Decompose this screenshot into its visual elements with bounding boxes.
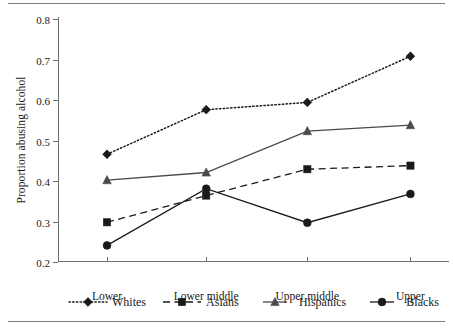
data-point-marker <box>179 298 186 305</box>
legend-item-whites[interactable]: Whites <box>68 295 146 309</box>
data-point-marker <box>84 298 93 307</box>
data-point-marker <box>406 52 415 61</box>
series-line <box>107 56 410 154</box>
series-line <box>107 189 410 246</box>
data-point-marker <box>407 190 415 198</box>
legend-item-asians[interactable]: Asians <box>162 295 239 309</box>
data-point-marker <box>103 150 112 159</box>
legend-label: Hispanics <box>299 295 346 309</box>
y-tick-label: 0.7 <box>36 53 50 69</box>
top-divider-rule <box>8 3 445 4</box>
y-tick-label: 0.4 <box>36 174 50 190</box>
data-point-marker <box>103 219 110 226</box>
data-point-marker <box>202 185 210 193</box>
y-tick-label: 0.2 <box>36 255 50 271</box>
legend-label: Asians <box>206 295 239 309</box>
data-point-marker <box>378 298 386 306</box>
chart-legend: WhitesAsiansHispanicsBlacks <box>58 291 447 313</box>
series-lines-group <box>58 19 447 262</box>
legend-item-blacks[interactable]: Blacks <box>362 295 439 309</box>
legend-swatch-diamond-icon <box>68 296 108 308</box>
legend-swatch-square-icon <box>162 296 202 308</box>
series-asians <box>103 162 414 226</box>
data-point-marker <box>103 241 111 249</box>
y-tick-label: 0.8 <box>36 12 50 28</box>
data-point-marker <box>303 219 311 227</box>
data-point-marker <box>407 162 414 169</box>
legend-label: Blacks <box>406 295 439 309</box>
data-point-marker <box>406 121 414 129</box>
series-line <box>107 166 410 223</box>
plot-area: 0.20.30.40.50.60.70.8 LowerLower middleU… <box>58 19 447 262</box>
data-point-marker <box>202 105 211 114</box>
legend-label: Whites <box>112 295 146 309</box>
legend-swatch-circle-icon <box>362 296 402 308</box>
y-axis-label: Proportion abusing alcohol <box>12 19 30 262</box>
data-point-marker <box>303 98 312 107</box>
y-tick-mark: 0.2 <box>53 262 58 263</box>
legend-item-hispanics[interactable]: Hispanics <box>255 295 346 309</box>
bottom-divider-rule <box>8 321 445 322</box>
figure-container: Proportion abusing alcohol 0.20.30.40.50… <box>0 0 453 329</box>
series-whites <box>103 52 415 159</box>
y-tick-label: 0.5 <box>36 134 50 150</box>
data-point-marker <box>304 166 311 173</box>
y-tick-label: 0.6 <box>36 93 50 109</box>
legend-swatch-triangle-icon <box>255 296 295 308</box>
series-hispanics <box>103 121 415 184</box>
series-blacks <box>103 185 414 250</box>
y-tick-label: 0.3 <box>36 215 50 231</box>
data-point-marker <box>202 168 210 176</box>
data-point-marker <box>203 192 210 199</box>
